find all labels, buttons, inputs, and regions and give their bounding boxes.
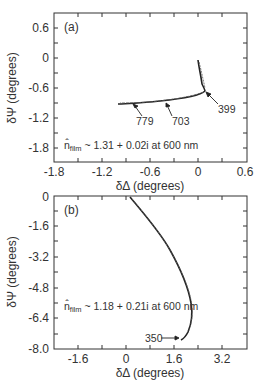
refractive-index-note-b: n̂film ~ 1.18 + 0.21i at 600 nm: [64, 299, 199, 314]
x-axis-title-a: δΔ (degrees): [116, 179, 185, 193]
fit-curve-b: [132, 199, 192, 333]
figure: 0.6 0 -0.6 -1.2 -1.8 -1.8 -1.2 -0.6 0 0.…: [0, 0, 263, 385]
point-label-703: 703: [172, 115, 190, 127]
data-curve-b: [130, 197, 192, 340]
x-tick-label: 3.2: [214, 352, 231, 366]
y-tick-label: -1.6: [28, 219, 49, 233]
x-axis-title-b: δΔ (degrees): [116, 366, 185, 380]
y-tick-label: -6.4: [28, 311, 49, 325]
panel-label-a: (a): [64, 20, 79, 34]
x-tick-label: 0: [195, 165, 202, 179]
y-tick-label: 0: [42, 190, 49, 204]
y-tick-label: -1.8: [28, 141, 49, 155]
x-ticks-b: [78, 196, 222, 349]
y-tick-label: -8.0: [28, 342, 49, 356]
y-axis-title-a: δΨ (degrees): [5, 52, 19, 123]
point-label-350: 350: [145, 332, 163, 344]
x-tick-label: 1.6: [166, 352, 183, 366]
point-label-779: 779: [136, 115, 154, 127]
panel-b: 0 -1.6 -3.2 -4.8 -6.4 -8.0 -1.6 0 1.6 3.…: [5, 190, 247, 380]
y-tick-label: 0: [42, 51, 49, 65]
y-tick-label: -3.2: [28, 250, 49, 264]
x-tick-label: -0.6: [140, 165, 161, 179]
y-ticks-b: [54, 211, 247, 334]
point-label-399: 399: [218, 103, 236, 115]
y-tick-label: 0.6: [32, 21, 49, 35]
plot-frame-b: [54, 196, 247, 349]
y-tick-label: -0.6: [28, 81, 49, 95]
arrows-a: [133, 92, 218, 116]
arrow-350: [161, 336, 179, 340]
x-tick-label: 0.6: [237, 165, 254, 179]
x-tick-label: -1.8: [44, 165, 65, 179]
y-axis-title-b: δΨ (degrees): [5, 236, 19, 307]
x-tick-label: -1.2: [92, 165, 113, 179]
x-tick-label: 0: [123, 352, 130, 366]
panel-a: 0.6 0 -0.6 -1.2 -1.8 -1.8 -1.2 -0.6 0 0.…: [5, 13, 254, 193]
y-tick-label: -4.8: [28, 281, 49, 295]
refractive-index-note-a: n̂film ~ 1.31 + 0.02i at 600 nm: [64, 138, 199, 153]
data-curve-a: [118, 60, 205, 104]
y-ticks-a: [54, 28, 247, 148]
panel-label-b: (b): [64, 203, 79, 217]
x-tick-label: -1.6: [68, 352, 89, 366]
y-tick-label: -1.2: [28, 111, 49, 125]
